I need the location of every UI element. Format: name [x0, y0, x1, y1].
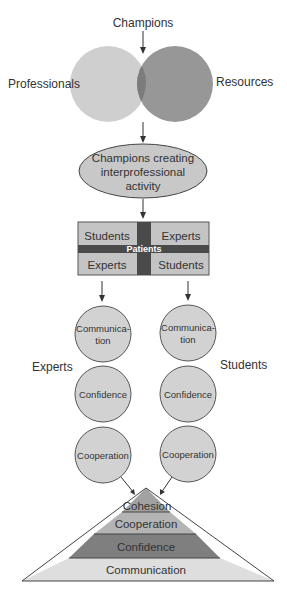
grid-center-patients: Patients [126, 244, 161, 254]
diagram-canvas: Champions Professionals Resources Champi… [0, 0, 287, 600]
students-communication-circle [160, 305, 216, 361]
experts-cooperation-label: Cooperation [77, 450, 129, 461]
grid-bottom-left: Experts [88, 259, 127, 271]
experts-communication-line-2: tion [95, 335, 110, 346]
arrowhead-icon [140, 47, 146, 54]
pyramid-confidence-label: Confidence [117, 541, 175, 553]
venn-resources-circle [137, 46, 213, 122]
pyramid-cooperation-label: Cooperation [115, 518, 178, 530]
experts-communication-line-1: Communica- [76, 323, 130, 334]
experts-communication-circle [75, 306, 131, 362]
arrowhead-icon [185, 294, 191, 301]
ellipse-line-1: Champions creating [92, 152, 194, 164]
professionals-label: Professionals [8, 77, 80, 91]
venn-professionals-circle [70, 46, 146, 122]
students-column-label: Students [220, 358, 267, 372]
students-communication-line-1: Communica- [161, 322, 215, 333]
resources-label: Resources [216, 75, 273, 89]
students-communication-line-2: tion [180, 334, 195, 345]
pyramid-communication-label: Communication [106, 564, 186, 576]
arrowhead-icon [160, 489, 165, 495]
grid-bottom-right: Students [158, 259, 204, 271]
arrowhead-icon [130, 489, 135, 495]
arrowhead-icon [140, 212, 146, 219]
grid-top-left: Students [84, 230, 130, 242]
experts-column-label: Experts [32, 360, 73, 374]
champions-label: Champions [113, 16, 174, 30]
experts-confidence-label: Confidence [79, 389, 127, 400]
arrowhead-icon [99, 295, 105, 302]
grid-top-right: Experts [162, 230, 201, 242]
arrowhead-icon [140, 136, 146, 143]
ellipse-line-3: activity [125, 180, 160, 192]
students-confidence-label: Confidence [164, 389, 212, 400]
pyramid-cohesion-label: Cohesion [123, 500, 172, 512]
ellipse-line-2: interprofessional [101, 166, 185, 178]
venn-diagram [70, 46, 213, 122]
students-cooperation-label: Cooperation [162, 449, 214, 460]
